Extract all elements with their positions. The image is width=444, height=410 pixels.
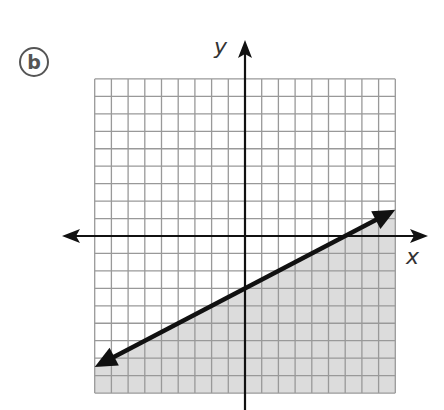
coordinate-plane [0, 0, 444, 410]
y-axis-label: y [214, 34, 227, 59]
x-axis-label: x [406, 244, 419, 269]
